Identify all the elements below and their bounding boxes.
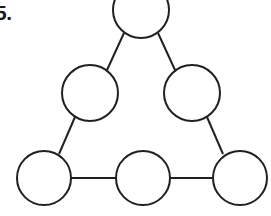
node-group <box>17 0 267 205</box>
problem-number-label: 5. <box>0 2 12 23</box>
edge-apex-to-left-middle <box>107 33 124 70</box>
circle-bottom-middle[interactable] <box>116 151 170 205</box>
edge-right-middle-to-bottom-right <box>207 117 223 154</box>
circle-bottom-left[interactable] <box>17 151 71 205</box>
circle-left-middle[interactable] <box>62 65 118 121</box>
circle-right-middle[interactable] <box>164 65 220 121</box>
edge-apex-to-right-middle <box>158 33 175 70</box>
circle-bottom-right[interactable] <box>213 151 267 205</box>
triangle-puzzle-diagram <box>0 0 271 216</box>
worksheet-problem-figure: 5. <box>0 0 271 216</box>
circle-apex[interactable] <box>113 0 169 38</box>
edge-left-middle-to-bottom-left <box>59 117 75 154</box>
